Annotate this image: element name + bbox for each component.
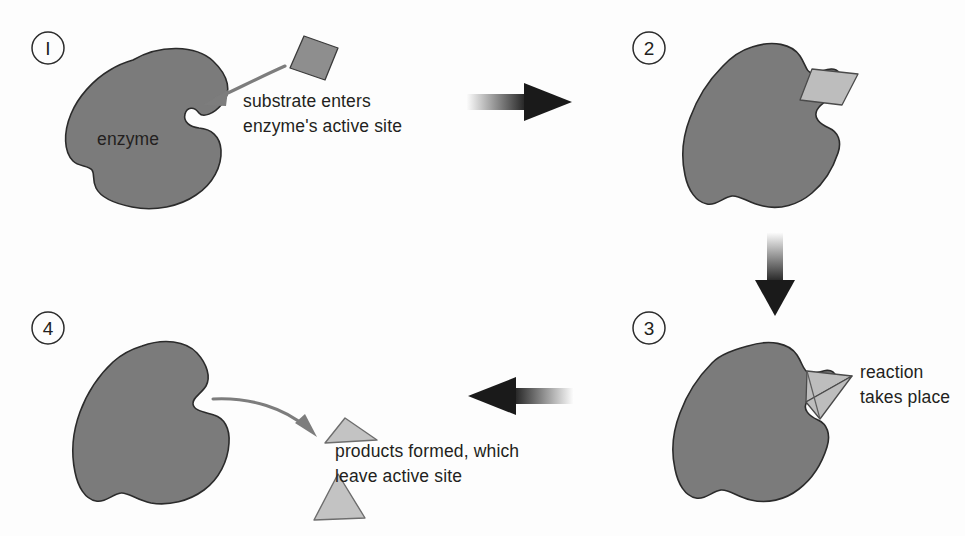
- arrow-step2-to-step3: [755, 232, 795, 316]
- enzyme-label-step1: enzyme: [97, 129, 159, 149]
- step-3-caption-line-1: reaction: [860, 362, 923, 382]
- step-3-caption-line-2: takes place: [860, 387, 950, 407]
- step-3-number: 3: [644, 318, 655, 339]
- step-1-panel: I enzyme substrate enters enzyme's activ…: [32, 32, 402, 209]
- step-1-caption-line-2: enzyme's active site: [243, 116, 402, 136]
- step-1-number: I: [45, 38, 50, 59]
- arrow-left-tail: [512, 388, 574, 404]
- step-3-badge: 3: [633, 312, 665, 344]
- enzyme-action-diagram: I enzyme substrate enters enzyme's activ…: [0, 0, 965, 536]
- arrow-step3-to-step4: [468, 377, 574, 415]
- arrow-step1-to-step2: [466, 83, 572, 121]
- step-3-panel: 3 reaction takes place: [633, 312, 950, 502]
- substrate-shape-step1: [290, 36, 338, 80]
- enzyme-shape-step4: [73, 342, 229, 504]
- arrow-right-tail: [466, 94, 528, 110]
- step-1-caption-line-1: substrate enters: [243, 91, 371, 111]
- arrow-left-head: [468, 377, 516, 415]
- arrow-down-tail: [767, 232, 783, 284]
- products-exit-arrow-head: [295, 414, 317, 437]
- step-2-number: 2: [644, 38, 655, 59]
- step-4-number: 4: [43, 318, 54, 339]
- diagram-canvas: I enzyme substrate enters enzyme's activ…: [0, 0, 965, 536]
- step-1-badge: I: [32, 32, 64, 64]
- products-exit-arrow-line: [213, 399, 306, 427]
- step-4-caption-line-1: products formed, which: [335, 441, 519, 461]
- arrow-right-head: [524, 83, 572, 121]
- enzyme-shape-step2: [683, 44, 842, 208]
- step-2-badge: 2: [633, 32, 665, 64]
- enzyme-shape-step3: [673, 343, 836, 502]
- product-triangle-1: [325, 418, 377, 443]
- arrow-down-head: [755, 280, 795, 316]
- step-4-panel: 4 products formed, which leave active si…: [32, 312, 519, 520]
- step-4-caption-line-2: leave active site: [335, 466, 462, 486]
- step-2-panel: 2: [633, 32, 858, 207]
- step-4-badge: 4: [32, 312, 64, 344]
